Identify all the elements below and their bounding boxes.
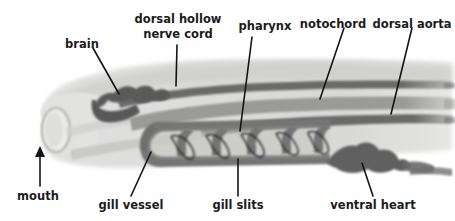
- label-dorsal-hollow-line2: nerve cord: [143, 28, 213, 41]
- label-dorsal-aorta: dorsal aorta: [373, 18, 452, 31]
- ventral-vessel: [410, 167, 452, 176]
- label-notochord: notochord: [300, 18, 366, 31]
- nerve-cord-leader: [176, 45, 177, 86]
- mouth-arrowhead: [35, 146, 45, 157]
- lancelet-anatomy-figure: brain dorsal hollow nerve cord pharynx n…: [0, 0, 455, 221]
- pharynx-chamber: [150, 128, 328, 157]
- label-mouth: mouth: [17, 190, 59, 203]
- mouth-opening: [42, 108, 70, 152]
- label-ventral-heart: ventral heart: [330, 199, 415, 212]
- anatomy-illustration: [0, 0, 455, 221]
- label-dorsal-hollow-line1: dorsal hollow: [135, 13, 222, 26]
- label-gill-vessel: gill vessel: [99, 199, 164, 212]
- label-pharynx: pharynx: [239, 20, 292, 33]
- label-gill-slits: gill slits: [212, 199, 263, 212]
- label-brain: brain: [65, 38, 99, 51]
